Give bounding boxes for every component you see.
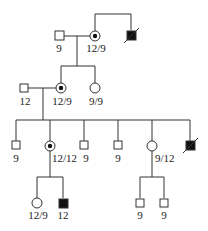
label-I-2: 12/9 (86, 42, 106, 54)
individual-II-1-male (20, 84, 28, 92)
label-III-3: 9 (83, 152, 89, 164)
label-IV-2: 12 (58, 209, 69, 221)
individual-III-4-male (114, 141, 122, 149)
label-IV-1: 12/9 (28, 209, 48, 221)
label-III-2: 12/12 (52, 152, 77, 164)
label-IV-4: 9 (161, 209, 167, 221)
individual-I-3-male-affected-deceased (124, 28, 139, 43)
individual-IV-2-male-affected (59, 199, 68, 208)
label-II-3: 9/9 (89, 95, 104, 107)
individual-III-3-male (80, 141, 88, 149)
label-II-2: 12/9 (52, 95, 72, 107)
individual-IV-1-female (32, 198, 42, 208)
label-III-1: 9 (13, 152, 19, 164)
individual-II-3-female (90, 83, 100, 93)
individual-I-2-female-carrier (90, 31, 100, 41)
label-IV-3: 9 (137, 209, 143, 221)
label-I-1: 9 (56, 42, 62, 54)
label-III-4: 9 (115, 152, 121, 164)
individual-III-1-male (12, 141, 20, 149)
individual-IV-3-male (136, 199, 144, 207)
pedigree-chart: 9 12/9 12 12/9 9/9 9 12/12 9 9 9/12 12/9… (0, 0, 208, 231)
label-III-5: 9/12 (155, 152, 175, 164)
individual-I-1-male (55, 31, 64, 40)
individual-IV-4-male (160, 199, 168, 207)
individual-II-2-female-carrier (56, 83, 66, 93)
label-II-1: 12 (20, 95, 31, 107)
individual-III-5-female (147, 141, 157, 151)
individual-III-2-female-carrier (45, 141, 55, 151)
